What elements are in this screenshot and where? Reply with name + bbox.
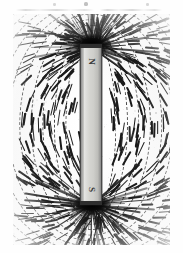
scan-speck <box>53 3 56 6</box>
iron-filing <box>14 214 28 218</box>
iron-filing <box>169 137 170 151</box>
iron-filing <box>117 61 128 74</box>
iron-filing <box>127 40 140 42</box>
south-pole-label: S <box>87 180 96 200</box>
bar-magnet: N S <box>80 44 102 205</box>
iron-filing <box>15 237 29 241</box>
field-photograph: N S <box>13 14 170 245</box>
iron-filing <box>157 121 158 134</box>
iron-filing <box>18 21 31 25</box>
iron-filing <box>85 22 93 34</box>
iron-filing <box>128 196 142 199</box>
iron-filing <box>123 208 137 210</box>
iron-filing <box>155 165 165 175</box>
iron-filing <box>129 126 131 142</box>
south-pole-cap <box>80 201 102 205</box>
iron-filing <box>26 229 40 234</box>
iron-filing <box>152 217 166 219</box>
iron-filing <box>57 109 60 125</box>
iron-filing <box>122 122 125 136</box>
scan-artifacts <box>0 0 183 14</box>
iron-filing <box>122 151 132 165</box>
iron-filing <box>65 235 74 244</box>
iron-filing <box>153 123 156 138</box>
north-pole-label: N <box>87 52 96 72</box>
iron-filing <box>34 45 49 48</box>
iron-filing <box>128 43 140 45</box>
north-pole-cap <box>80 44 102 48</box>
iron-filing <box>33 35 47 37</box>
iron-filing <box>40 201 52 202</box>
iron-filing <box>62 122 66 135</box>
scan-smudge <box>100 9 162 11</box>
iron-filing <box>159 42 170 45</box>
iron-filing <box>125 14 137 24</box>
iron-filing <box>146 33 158 36</box>
iron-filing <box>163 133 168 147</box>
iron-filing <box>29 208 44 209</box>
iron-filing <box>112 115 115 129</box>
iron-filing <box>156 25 168 29</box>
iron-filing <box>141 204 153 206</box>
scan-speck <box>146 3 149 6</box>
page-root: N S <box>0 0 183 253</box>
iron-filing <box>44 32 56 35</box>
iron-filing <box>169 209 170 211</box>
iron-filing <box>33 215 47 217</box>
iron-filing <box>169 191 170 197</box>
iron-filing <box>63 103 67 117</box>
iron-filing <box>144 125 146 138</box>
iron-filing <box>20 74 32 86</box>
iron-filing <box>145 46 159 49</box>
iron-filing <box>148 221 160 225</box>
iron-filing <box>144 37 160 39</box>
iron-filing <box>158 93 167 107</box>
iron-filing <box>30 112 33 125</box>
iron-filing <box>33 125 35 140</box>
iron-filing <box>21 212 34 213</box>
iron-filing <box>32 41 47 45</box>
iron-filing <box>39 102 43 116</box>
iron-filing <box>161 198 170 202</box>
iron-filing <box>148 97 155 108</box>
iron-filing <box>59 136 62 150</box>
iron-filing <box>96 16 100 30</box>
iron-filing <box>141 171 154 182</box>
scan-smudge <box>16 9 94 11</box>
iron-filing <box>52 206 64 209</box>
scan-speck <box>84 2 88 6</box>
